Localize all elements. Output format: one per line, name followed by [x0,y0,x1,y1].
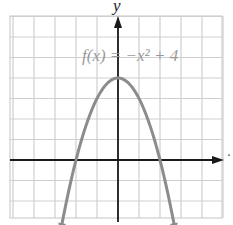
function-label: f(x) = −x² + 4 [82,46,178,66]
coordinate-plane [0,0,233,225]
y-axis-label: y [113,0,121,16]
x-axis-label: · [227,148,231,164]
